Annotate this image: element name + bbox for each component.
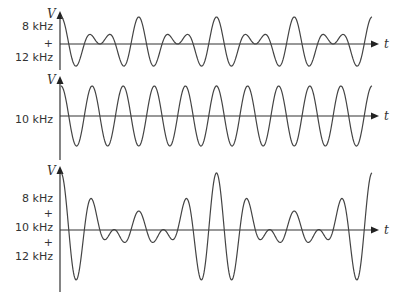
panel-label-line: + — [44, 207, 53, 220]
waveform-8-plus-12-khz — [61, 17, 372, 66]
panel-label-line: 8 kHz — [22, 20, 53, 33]
panel-label-line: 10 kHz — [15, 113, 53, 126]
v-axis-arrow-icon — [57, 166, 64, 174]
v-axis-arrow-icon — [57, 76, 64, 84]
t-axis-label: t — [384, 109, 389, 123]
t-axis-label: t — [384, 223, 389, 237]
panel-label-line: + — [44, 37, 53, 50]
panel-sum-8-10-12: V t 8 kHz + 10 kHz + 12 kHz — [15, 164, 389, 292]
t-axis-arrow-icon — [371, 227, 379, 234]
t-axis-label: t — [384, 37, 389, 51]
panel-label-line: 12 kHz — [15, 51, 53, 64]
waveform-8-plus-10-plus-12-khz — [61, 173, 372, 280]
t-axis-arrow-icon — [371, 41, 379, 48]
v-axis-label: V — [47, 73, 57, 87]
panel-label-line: 12 kHz — [15, 250, 53, 263]
panel-pure-10: V t 10 kHz — [15, 73, 389, 160]
v-axis-label: V — [47, 7, 57, 21]
v-axis-label: V — [47, 164, 57, 178]
panel-label-line: 8 kHz — [22, 192, 53, 205]
t-axis-arrow-icon — [371, 113, 379, 120]
panel-label-line: 10 kHz — [15, 221, 53, 234]
panel-beat-8-12: V t 8 kHz + 12 kHz — [15, 7, 389, 70]
waveform-diagram: V t 8 kHz + 12 kHz V t 10 kHz V t 8 kHz … — [0, 0, 402, 299]
panel-label-line: + — [44, 236, 53, 249]
